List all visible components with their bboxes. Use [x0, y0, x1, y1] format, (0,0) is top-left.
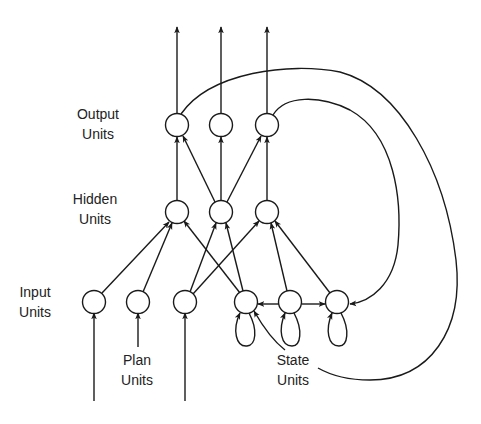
state-label-line1: State [268, 350, 318, 370]
feedback-o3-s3 [273, 99, 399, 304]
edge-s3-h3 [275, 221, 330, 293]
hidden-units-label: Hidden Units [65, 189, 125, 229]
feedback-o1-s1-tail [254, 311, 285, 350]
state-units-label: State Units [268, 350, 318, 390]
input-label-line1: Input [10, 282, 60, 302]
self-loop-s3 [328, 313, 347, 346]
input-unit-2 [127, 291, 150, 314]
output-units-label: Output Units [68, 104, 128, 144]
state-unit-2 [279, 291, 302, 314]
hidden-unit-2 [210, 201, 233, 224]
plan-label-line1: Plan [112, 350, 162, 370]
state-label-line2: Units [268, 370, 318, 390]
edge-s1-h2 [226, 223, 243, 291]
output-label-line2: Units [68, 124, 128, 144]
input-units-label: Input Units [10, 282, 60, 322]
input-unit-3 [174, 291, 197, 314]
input-unit-1 [83, 291, 106, 314]
output-label-line1: Output [68, 104, 128, 124]
hidden-unit-1 [166, 201, 189, 224]
hidden-unit-3 [256, 201, 279, 224]
output-unit-1 [166, 114, 189, 137]
state-unit-3 [326, 291, 349, 314]
hidden-label-line2: Units [65, 209, 125, 229]
edge-h2-o1 [183, 136, 215, 202]
self-loop-s1 [236, 313, 255, 346]
edge-h2-o3 [227, 136, 261, 202]
plan-units-label: Plan Units [112, 350, 162, 390]
output-unit-2 [210, 114, 233, 137]
plan-label-line2: Units [112, 370, 162, 390]
state-unit-1 [235, 291, 258, 314]
output-unit-3 [256, 114, 279, 137]
self-loop-s2 [281, 313, 300, 346]
input-label-line2: Units [10, 302, 60, 322]
hidden-label-line1: Hidden [65, 189, 125, 209]
edge-i1-h1 [102, 222, 169, 293]
